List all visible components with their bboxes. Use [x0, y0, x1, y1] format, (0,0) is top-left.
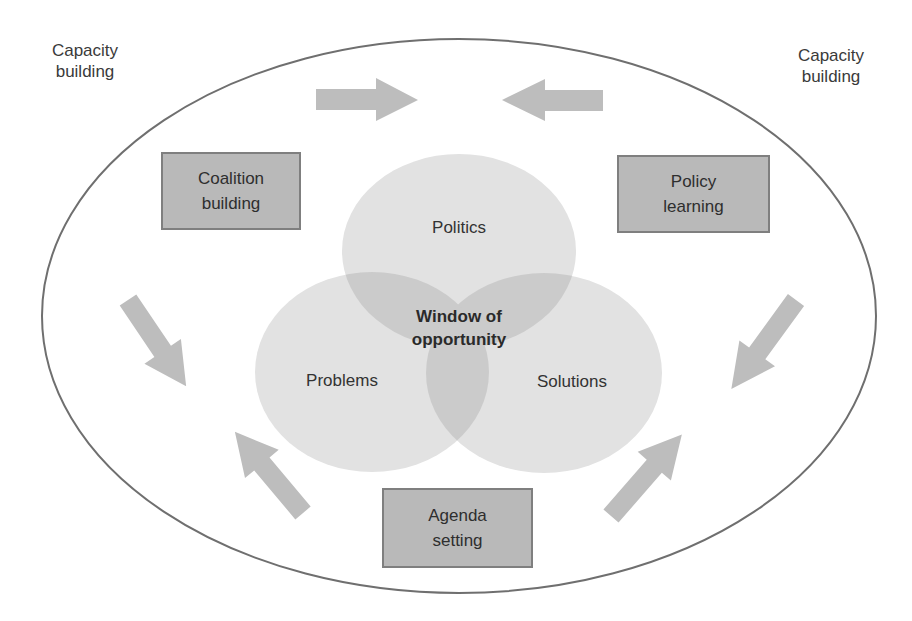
label-line: Capacity: [30, 40, 140, 61]
problems-label: Problems: [282, 371, 402, 391]
window-of-opportunity-label: Window of opportunity: [384, 305, 534, 351]
coalition-building-box: Coalition building: [161, 152, 301, 230]
box-label: building: [198, 191, 264, 216]
arrow-left-icon: [502, 79, 603, 121]
box-label: Coalition: [198, 166, 264, 191]
policy-window-diagram: Capacity building Capacity building Coal…: [0, 0, 912, 621]
box-label: Agenda: [428, 503, 487, 528]
policy-learning-box: Policy learning: [617, 155, 770, 233]
label-line: opportunity: [384, 328, 534, 351]
arrow-down-right-icon: [110, 288, 205, 399]
solutions-label: Solutions: [512, 372, 632, 392]
agenda-setting-box: Agenda setting: [382, 488, 533, 568]
box-label: Policy: [663, 169, 724, 194]
capacity-building-label-left: Capacity building: [30, 40, 140, 82]
box-label: setting: [428, 528, 487, 553]
box-label: learning: [663, 194, 724, 219]
label-line: Capacity: [776, 45, 886, 66]
capacity-building-label-right: Capacity building: [776, 45, 886, 87]
arrow-down-left-icon: [714, 287, 814, 402]
politics-label: Politics: [399, 218, 519, 238]
label-line: building: [30, 61, 140, 82]
label-line: Window of: [384, 305, 534, 328]
arrow-right-icon: [316, 78, 418, 121]
label-line: building: [776, 66, 886, 87]
